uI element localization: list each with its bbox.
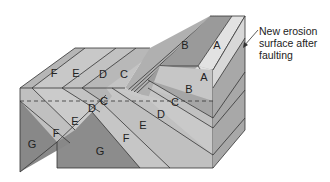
label-front-B: B bbox=[185, 83, 192, 95]
label-top-C: C bbox=[120, 68, 128, 80]
label-right-D: D bbox=[157, 108, 165, 120]
annotation-line-3: faulting bbox=[259, 49, 293, 61]
label-left-C: C bbox=[100, 95, 108, 107]
label-top-E: E bbox=[72, 67, 79, 79]
label-left-F: F bbox=[53, 127, 60, 139]
annotation-line-1: New erosion bbox=[259, 25, 318, 37]
annotation-line-2: surface after bbox=[259, 37, 318, 49]
label-top-D: D bbox=[99, 68, 107, 80]
label-up-A: A bbox=[213, 39, 221, 51]
label-left-D: D bbox=[88, 102, 96, 114]
label-up-B: B bbox=[181, 39, 188, 51]
label-left-E: E bbox=[71, 115, 78, 127]
label-front-A: A bbox=[200, 71, 208, 83]
erosion-surface-annotation: New erosion surface after faulting bbox=[243, 25, 318, 61]
label-right-G: G bbox=[96, 145, 105, 157]
label-left-G: G bbox=[28, 138, 37, 150]
fault-block-diagram: F E D C B A A B G F E D C G F E D C New … bbox=[0, 0, 330, 182]
label-right-C: C bbox=[171, 96, 179, 108]
label-right-E: E bbox=[139, 119, 146, 131]
label-top-F: F bbox=[51, 67, 58, 79]
label-right-F: F bbox=[123, 132, 130, 144]
